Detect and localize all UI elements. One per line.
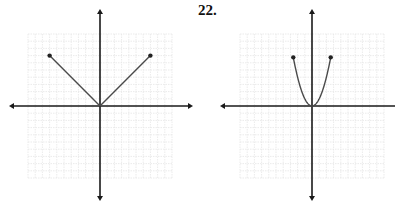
closed-endpoint bbox=[329, 55, 333, 59]
closed-endpoint bbox=[47, 53, 51, 57]
arrow-down-icon bbox=[97, 196, 103, 201]
problem-number-label: 22. bbox=[198, 2, 217, 19]
graph-absolute-value bbox=[9, 9, 193, 201]
arrow-right-icon bbox=[188, 103, 193, 109]
arrow-up-icon bbox=[309, 9, 315, 14]
arrow-left-icon bbox=[220, 103, 225, 109]
arrow-down-icon bbox=[309, 196, 315, 201]
closed-endpoint bbox=[148, 53, 152, 57]
graph-parabola bbox=[220, 9, 395, 201]
arrow-up-icon bbox=[97, 9, 103, 14]
graphs-canvas bbox=[0, 0, 395, 207]
arrow-left-icon bbox=[9, 103, 14, 109]
closed-endpoint bbox=[291, 55, 295, 59]
